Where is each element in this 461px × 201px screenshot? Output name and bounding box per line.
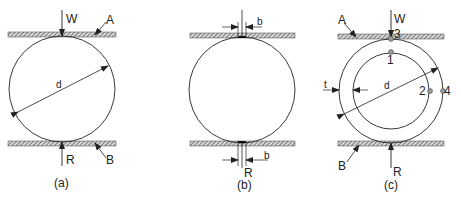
contact-width-label-bottom: b bbox=[264, 150, 270, 161]
bottom-plate-label-c: B bbox=[338, 159, 346, 173]
sphere-a bbox=[9, 36, 115, 142]
panel-b: b b R (b) bbox=[189, 10, 295, 192]
point-3 bbox=[389, 37, 394, 42]
point-2-label: 2 bbox=[419, 84, 426, 98]
diameter-dim-a bbox=[18, 66, 108, 112]
top-contact-patch bbox=[238, 36, 246, 38]
point-3-label: 3 bbox=[394, 27, 401, 41]
bottom-contact-patch bbox=[238, 141, 246, 143]
point-4-label: 4 bbox=[444, 84, 451, 98]
reaction-label-c: R bbox=[393, 165, 402, 179]
caption-a: (a) bbox=[54, 176, 69, 190]
bottom-plate-label-a: B bbox=[106, 153, 114, 167]
plate-b-leader-c bbox=[347, 145, 359, 162]
caption-b: (b) bbox=[237, 178, 252, 192]
top-plate-label-a: A bbox=[106, 13, 114, 27]
panel-c: A W 3 1 2 4 t d B R (c) bbox=[323, 10, 451, 192]
point-1-label: 1 bbox=[387, 53, 394, 67]
figure: W A R B d (a) b b R (b) bbox=[0, 0, 461, 201]
sphere-b bbox=[189, 37, 295, 143]
load-label-a: W bbox=[66, 12, 78, 26]
thickness-label: t bbox=[324, 79, 327, 90]
diameter-label-c: d bbox=[384, 80, 390, 91]
panel-a: W A R B d (a) bbox=[8, 10, 116, 190]
contact-width-label-top: b bbox=[257, 16, 263, 27]
top-plate-label-c: A bbox=[338, 13, 346, 27]
diameter-label-a: d bbox=[56, 79, 62, 90]
reaction-label-a: R bbox=[66, 153, 75, 167]
load-label-c: W bbox=[394, 12, 406, 26]
point-2 bbox=[428, 89, 433, 94]
caption-c: (c) bbox=[384, 178, 398, 192]
